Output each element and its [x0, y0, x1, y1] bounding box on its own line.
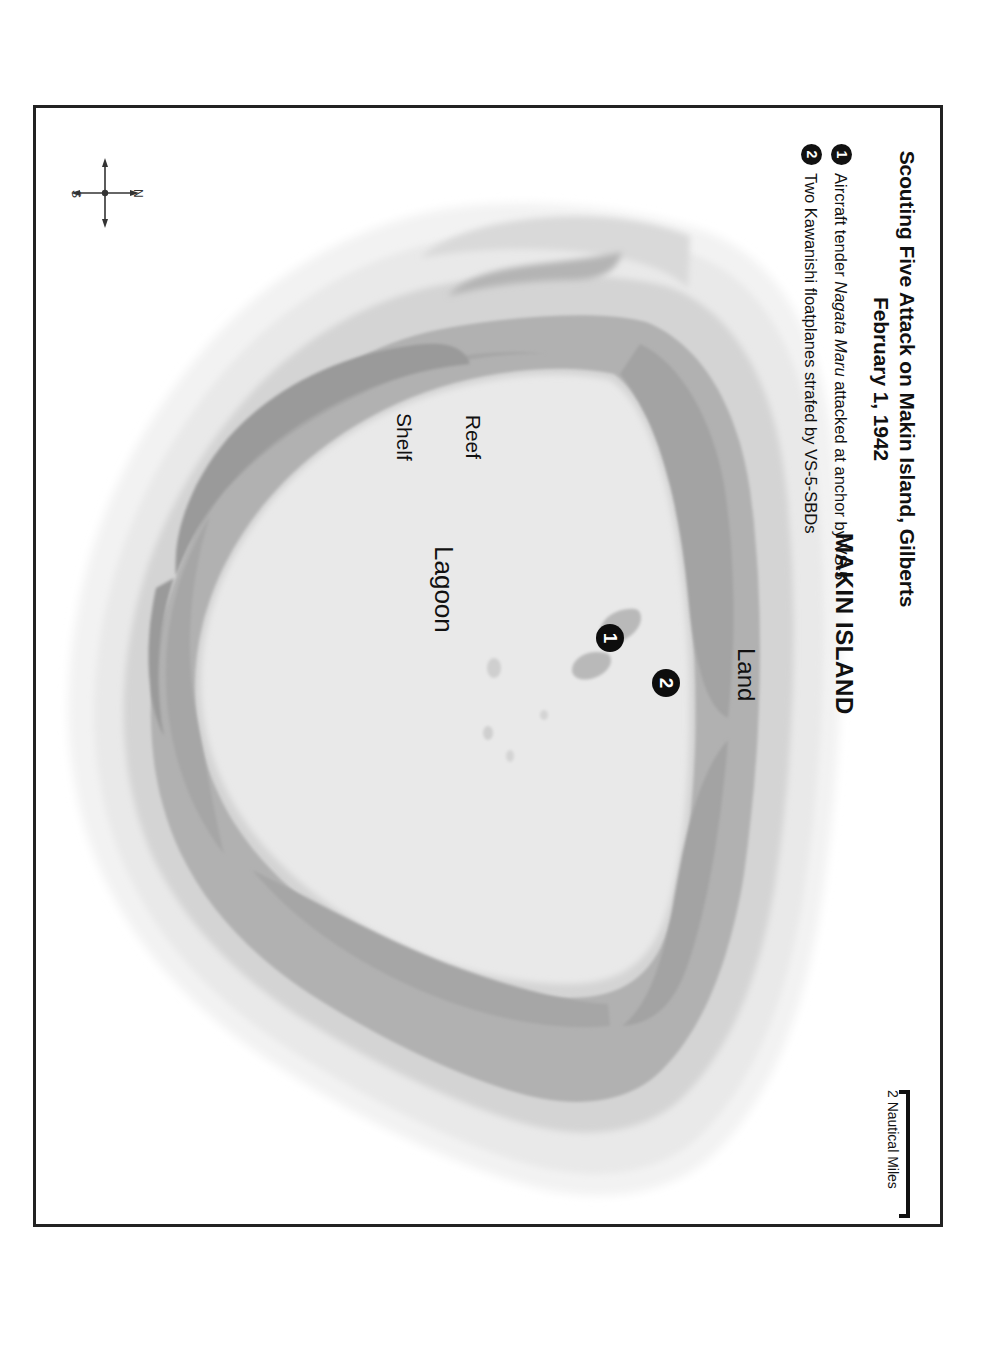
lagoon-islet	[487, 658, 501, 678]
map-marker-1[interactable]: 1	[596, 624, 624, 652]
compass-label-north: N	[131, 189, 145, 198]
lagoon-islet	[540, 710, 548, 720]
map-marker-2[interactable]: 2	[652, 669, 680, 697]
map-label-reef-shelf-line-2: Shelf	[392, 413, 415, 461]
map-label-reef-shelf-line-1: Reef	[462, 413, 485, 461]
compass-rose: N S	[65, 148, 145, 238]
scale-bar-line	[906, 1090, 910, 1218]
legend-marker-1-icon: 1	[831, 144, 852, 165]
legend-item-2: 2 Two Kawanishi floatplanes strafed by V…	[800, 144, 823, 674]
legend-item-2-text: Two Kawanishi floatplanes strafed by VS-…	[800, 173, 823, 533]
scale-bar-label: 2 Nautical Miles	[885, 1090, 901, 1189]
legend-item-1-ship-name: Nagata Maru	[832, 281, 850, 376]
legend-item-1-text-before: Aircraft tender	[832, 173, 850, 281]
legend-marker-2-icon: 2	[801, 144, 822, 165]
map-stage: Scouting Five Attack on Makin Island, Gi…	[36, 108, 940, 1224]
legend-item-1-text: Aircraft tender Nagata Maru attacked at …	[829, 173, 852, 580]
map-label-lagoon: Lagoon	[428, 546, 459, 633]
scale-bar: 2 Nautical Miles	[885, 1090, 910, 1218]
page-canvas: Scouting Five Attack on Makin Island, Gi…	[0, 0, 1000, 1356]
lagoon-islet	[483, 726, 493, 740]
map-frame: Scouting Five Attack on Makin Island, Gi…	[33, 105, 943, 1227]
map-label-land: Land	[732, 648, 760, 701]
page-title: Scouting Five Attack on Makin Island, Gi…	[869, 144, 920, 614]
title-line-1: Scouting Five Attack on Makin Island, Gi…	[894, 144, 920, 614]
title-line-2: February 1, 1942	[869, 144, 895, 614]
map-label-island-name: MAKIN ISLAND	[830, 533, 858, 715]
map-label-reef-shelf: Reef Shelf	[346, 413, 531, 461]
compass-label-south: S	[69, 190, 83, 198]
lagoon-islet	[506, 750, 514, 762]
legend-item-2-text-before: Two Kawanishi floatplanes strafed by VS-…	[802, 173, 820, 533]
